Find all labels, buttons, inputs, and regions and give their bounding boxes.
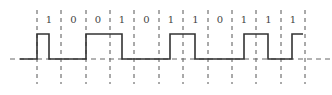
bit-label: 1 — [265, 14, 271, 25]
bit-label: 1 — [168, 14, 174, 25]
bit-label: 0 — [70, 14, 76, 25]
bit-label: 1 — [192, 14, 198, 25]
bit-labels: 10010110111 — [46, 14, 296, 25]
bit-label: 0 — [217, 14, 223, 25]
bit-label: 1 — [46, 14, 52, 25]
waveform-diagram: 10010110111 — [0, 0, 332, 95]
bit-label: 0 — [143, 14, 149, 25]
bit-label: 1 — [241, 14, 247, 25]
bit-label: 0 — [95, 14, 101, 25]
bit-label: 1 — [290, 14, 296, 25]
signal-waveform — [20, 34, 303, 59]
bit-label: 1 — [119, 14, 125, 25]
